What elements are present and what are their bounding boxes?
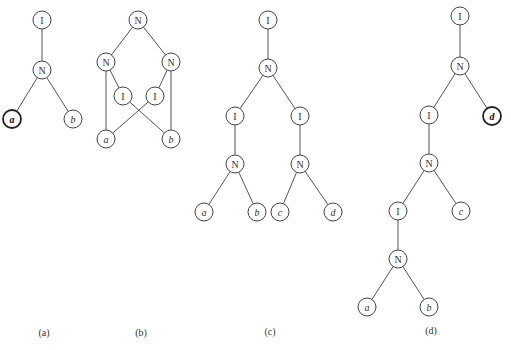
diagram-caption: (a) [38, 327, 49, 339]
leaf-node: c [452, 202, 470, 220]
n-node: N [226, 155, 244, 173]
leaf-node: c [271, 203, 289, 221]
node-label: N [425, 158, 432, 169]
i-node: I [146, 87, 164, 105]
n-node: N [97, 53, 115, 71]
diagram-a: INab(a) [3, 11, 82, 339]
leaf-node: b [162, 130, 180, 148]
node-label: I [121, 91, 124, 102]
n-node: N [451, 57, 469, 75]
node-label: a [10, 114, 15, 125]
edge [372, 267, 393, 300]
node-label: I [266, 15, 269, 26]
i-node: I [389, 202, 407, 220]
edge [283, 172, 296, 203]
leaf-node: b [420, 298, 438, 316]
edge [403, 171, 424, 204]
edge [239, 172, 254, 204]
i-node: I [259, 11, 277, 29]
i-node: I [291, 107, 309, 125]
tree-diagrams-canvas: INab(a)NNNIIab(b)INIINNabcd(c)INIdNIcNab… [0, 0, 511, 350]
edge [144, 27, 166, 55]
i-node: I [114, 87, 132, 105]
node-label: b [169, 134, 174, 145]
diagram-b: NNNIIab(b) [97, 11, 180, 339]
leaf-node: a [195, 203, 213, 221]
node-label: N [394, 254, 401, 265]
edge [273, 75, 295, 108]
node-label: c [459, 206, 464, 217]
node-label: N [456, 61, 463, 72]
diagram-d: INIdNIcNab(d) [358, 7, 501, 337]
n-node: N [389, 250, 407, 268]
node-label: I [298, 111, 301, 122]
node-label: a [104, 134, 109, 145]
node-label: N [38, 65, 45, 76]
edge [113, 102, 148, 133]
diagram-caption: (b) [135, 327, 147, 339]
i-node: I [451, 7, 469, 25]
edge [240, 75, 263, 108]
n-node: N [162, 53, 180, 71]
n-node: N [420, 154, 438, 172]
leaf-node: a [358, 298, 376, 316]
leaf-node: d [483, 107, 501, 125]
edge [130, 102, 165, 133]
leaf-node: d [324, 203, 342, 221]
leaf-node: a [3, 110, 21, 128]
node-label: I [40, 15, 43, 26]
edge [305, 171, 328, 204]
i-node: I [226, 107, 244, 125]
node-label: N [167, 57, 174, 68]
leaf-node: a [97, 130, 115, 148]
node-label: N [264, 63, 271, 74]
node-label: I [396, 206, 399, 217]
n-node: N [259, 59, 277, 77]
node-label: I [233, 111, 236, 122]
edge [111, 27, 132, 55]
node-label: N [102, 57, 109, 68]
edge [17, 78, 38, 112]
node-label: b [427, 302, 432, 313]
diagram-caption: (c) [264, 326, 275, 338]
node-label: a [202, 207, 207, 218]
edge [159, 70, 167, 88]
edge [403, 267, 424, 300]
node-label: c [278, 207, 283, 218]
node-label: a [365, 302, 370, 313]
n-node: N [129, 11, 147, 29]
node-label: I [427, 110, 430, 121]
edge [434, 170, 456, 203]
leaf-node: b [248, 203, 266, 221]
diagram-c: INIINNabcd(c) [195, 11, 342, 338]
node-label: N [296, 159, 303, 170]
node-label: I [153, 91, 156, 102]
i-node: I [420, 106, 438, 124]
node-label: b [255, 207, 260, 218]
i-node: I [33, 11, 51, 29]
node-label: b [71, 114, 76, 125]
n-node: N [33, 61, 51, 79]
leaf-node: b [64, 110, 82, 128]
node-label: N [231, 159, 238, 170]
node-label: I [458, 11, 461, 22]
edge [47, 78, 68, 112]
edge [465, 74, 487, 109]
edge [110, 70, 119, 88]
node-label: N [134, 15, 141, 26]
edge [209, 172, 230, 205]
diagram-caption: (d) [425, 325, 437, 337]
n-node: N [291, 155, 309, 173]
edge [434, 74, 455, 108]
